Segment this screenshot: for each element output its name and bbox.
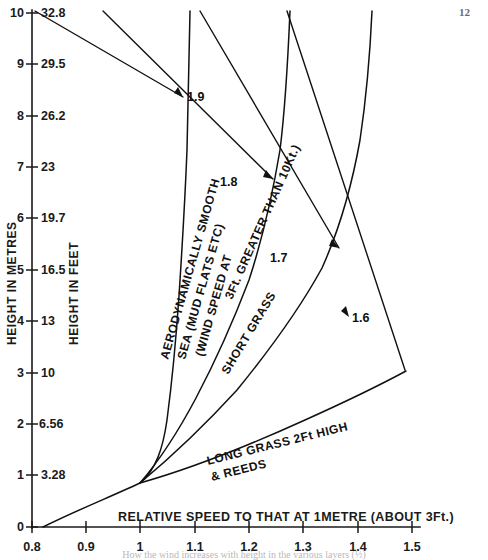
- curve-name-labels: AERODYNAMICALLY SMOOTH SEA (MUD FLATS ET…: [157, 142, 349, 484]
- y-label-metres-0: 0: [17, 520, 24, 534]
- y-label-metres-8: 8: [17, 109, 24, 123]
- x-label-7: 1.5: [403, 540, 420, 554]
- chart-page: 0 1 2 3 4 5 6 7 8 9 10 3.28 6.56 10 13 1…: [0, 0, 488, 560]
- y-label-metres-7: 7: [17, 160, 24, 174]
- contour-label-1-8: 1.8: [220, 175, 237, 189]
- y-label-feet-7: 23: [41, 160, 55, 174]
- y-axis-title-feet: HEIGHT IN FEET: [67, 242, 81, 345]
- y-label-feet-8: 26.2: [41, 109, 65, 123]
- y-label-metres-10: 10: [10, 6, 24, 20]
- y-label-metres-9: 9: [17, 57, 24, 71]
- contour-label-1-7: 1.7: [270, 251, 287, 265]
- contour-label-1-9: 1.9: [187, 90, 204, 104]
- y-label-metres-1: 1: [17, 468, 24, 482]
- y-label-feet-2: 6.56: [39, 417, 63, 431]
- y-label-metres-2: 2: [17, 417, 24, 431]
- y-label-feet-10: 32.8: [41, 6, 65, 20]
- contour-line-1-9: [35, 11, 183, 97]
- y-label-feet-4: 13: [41, 314, 55, 328]
- curve-label-long-grass-2ft-high: LONG GRASS 2Ft HIGH: [205, 419, 349, 468]
- wind-profile-chart: 0 1 2 3 4 5 6 7 8 9 10 3.28 6.56 10 13 1…: [0, 0, 488, 560]
- curve-label-3ft-greater-than-10kt: 3Ft. GREATER THAN 10Kt.): [222, 142, 303, 301]
- x-label-0: 0.8: [23, 540, 40, 554]
- y-label-metres-3: 3: [17, 366, 24, 380]
- x-axis-title: RELATIVE SPEED TO THAT AT 1METRE (ABOUT …: [118, 510, 454, 524]
- y-label-feet-1: 3.28: [41, 468, 65, 482]
- y-label-feet-9: 29.5: [41, 57, 65, 71]
- y-axis-title-metres: HEIGHT IN METRES: [5, 221, 19, 345]
- y-axis: 0 1 2 3 4 5 6 7 8 9 10 3.28 6.56 10 13 1…: [5, 6, 81, 534]
- y-label-feet-5: 16.5: [41, 263, 65, 277]
- contour-label-1-6: 1.6: [352, 311, 369, 325]
- x-axis: 0.8 0.9 1 1.1 1.2 1.3 1.4 1.5 RELATIVE S…: [23, 510, 454, 554]
- page-number: 12: [459, 6, 471, 18]
- x-label-1: 0.9: [77, 540, 94, 554]
- figure-caption: How the wind increases with height in th…: [122, 549, 366, 560]
- y-axis-feet-labels: 3.28 6.56 10 13 16.5 19.7 23 26.2 29.5 3…: [39, 6, 65, 482]
- y-label-feet-3: 10: [41, 366, 55, 380]
- contour-arrow-1-6: [341, 306, 349, 317]
- y-label-feet-6: 19.7: [41, 211, 65, 225]
